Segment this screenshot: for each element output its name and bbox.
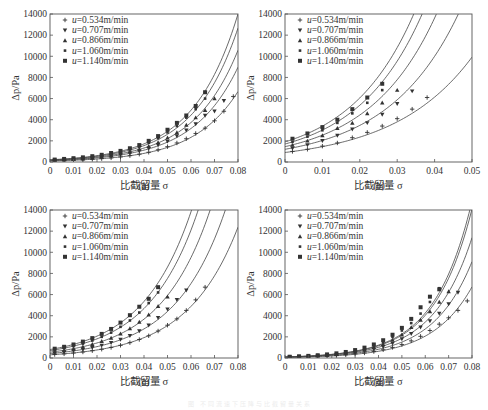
y-axis-label: Δp/Pa	[10, 75, 21, 101]
triangle-up-marker	[298, 234, 302, 238]
y-tick-label: 12000	[23, 30, 47, 40]
data-points	[290, 82, 429, 154]
x-tick-label: 0	[283, 362, 288, 372]
small-square-marker	[291, 141, 294, 144]
plus-marker	[156, 148, 160, 152]
triangle-down-marker	[203, 114, 207, 118]
chart-panel-b: 0200040006000800010000120001400000.010.0…	[244, 0, 488, 200]
y-axis-label: Δp/Pa	[245, 75, 256, 101]
y-tick-label: 6000	[263, 290, 282, 300]
y-tick-label: 0	[42, 157, 47, 167]
square-marker	[325, 352, 329, 356]
y-tick-label: 2000	[28, 332, 47, 342]
small-square-marker	[100, 336, 103, 339]
y-tick-label: 8000	[28, 73, 47, 83]
fit-curve	[285, 287, 472, 358]
triangle-up-marker	[298, 38, 302, 42]
triangle-down-marker	[410, 89, 414, 93]
small-square-marker	[410, 322, 413, 325]
square-marker	[147, 297, 151, 301]
chart-svg-d: 0200040006000800010000120001400000.010.0…	[244, 196, 488, 396]
x-tick-label: 0.01	[65, 362, 82, 372]
triangle-down-marker	[365, 121, 369, 125]
chart-panel-d: 0200040006000800010000120001400000.010.0…	[244, 196, 488, 396]
x-tick-label: 0.06	[183, 362, 200, 372]
x-tick-label: 0.06	[417, 362, 434, 372]
square-marker	[353, 348, 357, 352]
fit-curve	[285, 57, 472, 152]
small-square-marker	[381, 89, 384, 92]
x-tick-label: 0	[283, 166, 288, 176]
y-tick-label: 8000	[263, 73, 282, 83]
plus-marker	[63, 214, 67, 218]
triangle-down-marker	[118, 338, 122, 342]
square-marker	[72, 342, 76, 346]
square-marker	[90, 154, 94, 158]
x-tick-label: 0.04	[136, 166, 153, 176]
plus-marker	[320, 144, 324, 148]
small-square-marker	[429, 301, 432, 304]
panel-tag-c: (c)	[129, 376, 159, 387]
small-square-marker	[194, 108, 197, 111]
square-marker	[81, 155, 85, 159]
plus-marker	[109, 345, 113, 349]
legend-item-label: u=0.866m/min	[307, 231, 364, 241]
small-square-marker	[306, 135, 309, 138]
y-tick-label: 8000	[28, 269, 47, 279]
y-axis-label: Δp/Pa	[245, 271, 256, 297]
square-marker	[53, 347, 57, 351]
x-tick-label: 0.01	[65, 166, 82, 176]
y-tick-label: 6000	[263, 94, 282, 104]
legend-item-label: u=0.534m/min	[307, 211, 364, 221]
plus-marker	[465, 299, 469, 303]
small-square-marker	[366, 102, 369, 105]
square-marker	[119, 149, 123, 153]
square-marker	[437, 287, 441, 291]
triangle-down-marker	[63, 28, 67, 32]
y-tick-label: 10000	[23, 248, 47, 258]
x-tick-label: 0.03	[389, 166, 406, 176]
x-tick-label: 0.03	[112, 166, 129, 176]
plus-marker	[137, 337, 141, 341]
small-square-marker	[147, 302, 150, 305]
plus-marker	[305, 147, 309, 151]
legend-item-label: u=0.866m/min	[307, 35, 364, 45]
legend: u=0.534m/minu=0.707m/minu=0.866m/minu=1.…	[63, 15, 129, 66]
y-tick-label: 14000	[23, 205, 47, 215]
triangle-down-marker	[222, 99, 226, 103]
panel-tag-b: (b)	[364, 180, 394, 191]
x-tick-label: 0	[48, 362, 53, 372]
legend-item-label: u=0.534m/min	[72, 15, 129, 25]
legend-item-label: u=1.060m/min	[307, 242, 364, 252]
legend-item-label: u=1.140m/min	[72, 252, 129, 262]
square-marker	[380, 82, 384, 86]
square-marker	[137, 305, 141, 309]
square-marker	[63, 59, 67, 63]
triangle-down-marker	[298, 28, 302, 32]
legend-item-label: u=1.140m/min	[307, 252, 364, 262]
x-tick-label: 0.02	[323, 362, 340, 372]
square-marker	[428, 295, 432, 299]
x-tick-label: 0.02	[351, 166, 368, 176]
data-points	[287, 287, 469, 360]
square-marker	[156, 134, 160, 138]
plus-marker	[63, 18, 67, 22]
square-marker	[194, 104, 198, 108]
x-tick-label: 0.07	[440, 362, 457, 372]
square-marker	[62, 345, 66, 349]
square-marker	[400, 326, 404, 330]
x-tick-label: 0.05	[464, 166, 481, 176]
y-tick-label: 14000	[258, 9, 282, 19]
square-marker	[298, 255, 302, 259]
triangle-down-marker	[380, 113, 384, 117]
square-marker	[203, 90, 207, 94]
y-tick-label: 2000	[263, 136, 282, 146]
triangle-up-marker	[365, 111, 369, 115]
square-marker	[100, 153, 104, 157]
square-marker	[365, 96, 369, 100]
square-marker	[175, 121, 179, 125]
square-marker	[372, 342, 376, 346]
y-tick-label: 12000	[258, 226, 282, 236]
small-square-marker	[138, 311, 141, 314]
legend-item-label: u=1.060m/min	[72, 46, 129, 56]
